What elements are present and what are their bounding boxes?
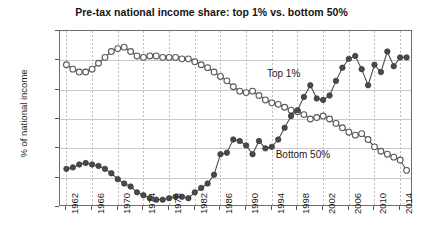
y-axis-tick-mark [55, 118, 59, 119]
data-point [320, 113, 326, 119]
data-point [224, 78, 230, 84]
y-axis-tick-mark [55, 89, 59, 90]
data-point [243, 90, 249, 96]
data-point [128, 49, 134, 55]
data-point [160, 197, 165, 202]
data-point [276, 137, 281, 142]
data-point [76, 69, 82, 75]
x-axis-tick-mark [373, 206, 374, 210]
data-point [121, 44, 127, 50]
series-label-bottom-50-: Bottom 50% [276, 149, 330, 160]
data-point [211, 172, 216, 177]
x-axis-tick-label: 2002 [326, 193, 337, 214]
data-point [365, 83, 370, 88]
data-point [378, 69, 383, 74]
x-axis-tick-label: 1978 [172, 193, 183, 214]
x-axis-tick-mark [65, 206, 66, 210]
data-point [230, 84, 236, 90]
data-point [282, 104, 288, 110]
x-axis-tick-mark [245, 206, 246, 210]
data-point [275, 101, 281, 107]
data-point [83, 69, 89, 75]
data-point [243, 143, 248, 148]
data-point [385, 49, 390, 54]
data-point [269, 100, 275, 106]
data-point [307, 116, 313, 122]
x-axis-tick-mark [296, 206, 297, 210]
x-axis-tick-mark [194, 206, 195, 210]
data-point [64, 166, 69, 171]
data-point [250, 152, 255, 157]
data-point [378, 148, 384, 154]
x-axis-tick-mark [348, 206, 349, 210]
data-point [83, 160, 88, 165]
data-point [115, 46, 121, 52]
data-point [301, 94, 306, 99]
data-point [96, 60, 102, 66]
x-axis-tick-label: 1986 [223, 193, 234, 214]
plot-area [59, 30, 412, 206]
data-point [308, 83, 313, 88]
series-label-top-1-: Top 1% [267, 68, 300, 79]
y-axis-tick-mark [55, 147, 59, 148]
x-axis-tick-mark [91, 206, 92, 210]
data-point [340, 65, 345, 70]
data-point [295, 108, 300, 113]
data-point [89, 162, 94, 167]
data-point [185, 56, 191, 62]
data-point [256, 93, 262, 99]
x-axis-tick-label: 1974 [146, 193, 157, 214]
data-point [211, 69, 217, 75]
data-point [70, 66, 76, 72]
data-point [134, 53, 140, 59]
data-point [153, 53, 159, 59]
data-point [70, 165, 75, 170]
data-point [404, 167, 410, 173]
data-point [128, 184, 133, 189]
x-axis-tick-mark [142, 206, 143, 210]
data-point [314, 115, 320, 121]
data-point [359, 66, 364, 71]
data-point [340, 125, 346, 131]
x-axis-tick-mark [399, 206, 400, 210]
data-point [391, 154, 397, 160]
data-point [391, 64, 396, 69]
data-point [256, 138, 261, 143]
data-point [365, 137, 371, 143]
data-point [89, 66, 95, 72]
data-point [397, 55, 402, 60]
x-axis-tick-label: 1998 [300, 193, 311, 214]
data-point [134, 190, 139, 195]
data-point [404, 55, 409, 60]
data-point [192, 59, 198, 65]
data-point [250, 88, 256, 94]
data-point [263, 146, 268, 151]
data-point [109, 171, 114, 176]
data-point [77, 162, 82, 167]
data-point [237, 88, 243, 94]
data-point [102, 166, 107, 171]
x-axis-tick-label: 2006 [352, 193, 363, 214]
data-point [237, 138, 242, 143]
data-point [160, 55, 166, 61]
data-point [288, 107, 294, 113]
data-point [205, 65, 211, 71]
data-point [141, 55, 147, 61]
y-axis-tick-mark [55, 177, 59, 178]
data-point [218, 74, 224, 80]
x-axis-tick-label: 1970 [121, 193, 132, 214]
data-point [327, 116, 333, 122]
y-axis-tick-mark [55, 30, 59, 31]
x-axis-tick-mark [219, 206, 220, 210]
y-axis-label: % of national income [18, 44, 29, 184]
data-point [166, 196, 171, 201]
data-point [269, 144, 274, 149]
y-axis-tick-mark [55, 206, 59, 207]
x-axis-tick-label: 2010 [377, 193, 388, 214]
data-point [288, 113, 293, 118]
data-point [96, 163, 101, 168]
data-point [372, 144, 378, 150]
data-point [231, 137, 236, 142]
data-point [108, 49, 114, 55]
data-point [198, 62, 204, 68]
